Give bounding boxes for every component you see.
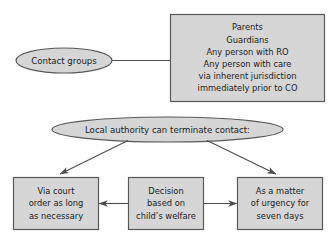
box-decision <box>129 178 204 230</box>
ellipse-contact-groups <box>16 48 112 73</box>
arrow-local-authority-to-court-order <box>60 141 128 175</box>
diagram-shapes-layer <box>0 0 335 236</box>
box-court-order <box>14 178 99 230</box>
arrow-local-authority-to-urgency <box>207 141 276 175</box>
box-urgency <box>238 178 323 230</box>
box-contact-persons <box>171 15 325 102</box>
ellipse-local-authority <box>52 117 283 142</box>
flowchart-diagram: Contact groups Parents Guardians Any per… <box>0 0 335 236</box>
